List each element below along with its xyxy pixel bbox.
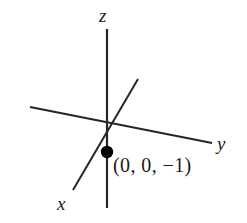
coordinate-axes-figure: z y x (0, 0, −1) [0,0,247,223]
y-axis-label: y [217,134,225,153]
y-axis-line [30,107,212,143]
point-coordinate-label: (0, 0, −1) [113,155,192,175]
plotted-point-dot [101,146,113,158]
axes-drawing [0,0,247,223]
x-axis-label: x [57,194,65,213]
z-axis-label: z [99,6,106,25]
